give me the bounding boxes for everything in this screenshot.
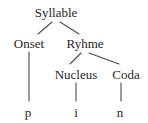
edge-ryhme-coda	[89, 53, 119, 64]
edge-syllable-ryhme	[60, 22, 79, 34]
syllable-tree-diagram: Syllable Onset Ryhme Nucleus Coda p i n	[0, 0, 148, 123]
node-ryhme: Ryhme	[66, 37, 103, 50]
node-coda: Coda	[112, 68, 139, 81]
edge-ryhme-nucleus	[70, 53, 81, 64]
node-syllable: Syllable	[35, 6, 78, 19]
leaf-onset-segment: p	[25, 106, 32, 119]
node-nucleus: Nucleus	[55, 68, 98, 81]
edge-syllable-onset	[38, 22, 52, 34]
node-onset: Onset	[14, 37, 44, 50]
leaf-nucleus-segment: i	[74, 106, 78, 119]
leaf-coda-segment: n	[117, 106, 124, 119]
